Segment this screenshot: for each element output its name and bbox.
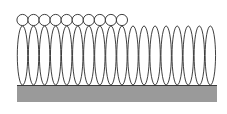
head-group-circle <box>72 14 83 25</box>
head-group-circle <box>116 14 127 25</box>
head-group-circle <box>94 14 105 25</box>
molecule-ellipse <box>50 26 60 85</box>
head-group-circle <box>61 14 72 25</box>
substrate-block <box>17 85 217 102</box>
molecule-ellipse <box>172 26 182 85</box>
molecule-ellipse <box>106 26 116 85</box>
molecule-ellipse <box>61 26 71 85</box>
molecule-ellipse <box>150 26 160 85</box>
head-group-circle <box>83 14 94 25</box>
molecule-ellipse <box>183 26 193 85</box>
molecule-ellipse <box>194 26 204 85</box>
molecule-ellipse <box>28 26 38 85</box>
molecule-ellipse <box>139 26 149 85</box>
head-group-layer <box>17 14 128 25</box>
molecule-ellipse <box>73 26 83 85</box>
molecule-ellipse <box>205 26 215 85</box>
head-group-circle <box>105 14 116 25</box>
monolayer-diagram <box>0 0 227 114</box>
molecule-ellipse <box>17 26 27 85</box>
head-group-circle <box>28 14 39 25</box>
molecule-layer <box>17 26 215 85</box>
molecule-ellipse <box>39 26 49 85</box>
molecule-ellipse <box>95 26 105 85</box>
head-group-circle <box>50 14 61 25</box>
substrate <box>17 85 217 102</box>
molecule-ellipse <box>128 26 138 85</box>
molecule-ellipse <box>161 26 171 85</box>
molecule-ellipse <box>117 26 127 85</box>
head-group-circle <box>39 14 50 25</box>
molecule-ellipse <box>84 26 94 85</box>
head-group-circle <box>17 14 28 25</box>
